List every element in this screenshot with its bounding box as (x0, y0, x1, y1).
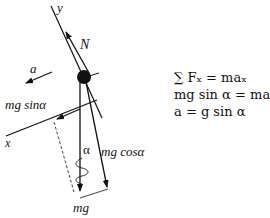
mg-cos-label: mg cosα (101, 145, 144, 158)
dashed-line-left (54, 122, 74, 192)
construction-line-bottom (80, 189, 108, 198)
ball (77, 70, 91, 84)
weight-label: mg (73, 201, 89, 214)
angle-arc-icon (76, 158, 88, 184)
x-axis-label: x (5, 137, 10, 149)
y-axis-label: y (57, 1, 63, 14)
normal-force-label: N (80, 38, 89, 52)
equation-newton: mg sin α = ma (174, 88, 270, 101)
mg-sin-label: mg sinα (5, 98, 46, 111)
acceleration-label: a (30, 62, 37, 75)
mg-cos-arrow (86, 82, 107, 187)
angle-label: α (83, 143, 90, 156)
equation-sum-forces: ∑ Fₓ = maₓ (174, 71, 247, 84)
equation-acceleration: a = g sin α (174, 105, 245, 118)
